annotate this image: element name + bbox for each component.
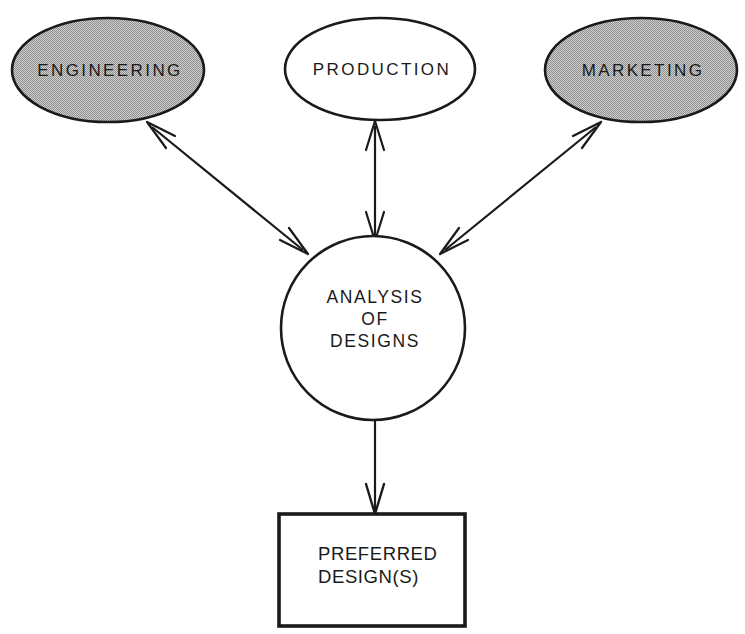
analysis-label-line-2: OF	[361, 309, 389, 329]
edge-line-marketing-analysis	[445, 127, 596, 250]
arrowhead-toward-analysis-from-marketing	[440, 228, 468, 254]
diagram-svg: ENGINEERING PRODUCTION MARKETING ANALYSI…	[0, 0, 745, 634]
analysis-label-line-3: DESIGNS	[330, 331, 420, 351]
edge-line-engineering-analysis	[152, 127, 303, 250]
edge-production-analysis	[366, 121, 384, 241]
node-marketing[interactable]: MARKETING	[545, 18, 737, 122]
analysis-label-line-1: ANALYSIS	[326, 287, 423, 307]
engineering-label: ENGINEERING	[37, 61, 182, 80]
marketing-label: MARKETING	[582, 61, 705, 80]
arrowhead-toward-analysis-from-engineering	[280, 228, 308, 254]
node-analysis-of-designs[interactable]: ANALYSIS OF DESIGNS	[281, 236, 465, 420]
preferred-label-line-1: PREFERRED	[318, 543, 438, 564]
edge-analysis-preferred	[366, 420, 384, 514]
edge-marketing-analysis	[440, 122, 601, 254]
diagram-canvas: ENGINEERING PRODUCTION MARKETING ANALYSI…	[0, 0, 745, 634]
node-production[interactable]: PRODUCTION	[285, 18, 475, 120]
edge-engineering-analysis	[147, 122, 308, 254]
node-preferred-designs[interactable]: PREFERRED DESIGN(S)	[279, 514, 465, 626]
node-engineering[interactable]: ENGINEERING	[12, 18, 204, 122]
production-label: PRODUCTION	[313, 60, 451, 79]
preferred-label-line-2: DESIGN(S)	[318, 566, 419, 587]
